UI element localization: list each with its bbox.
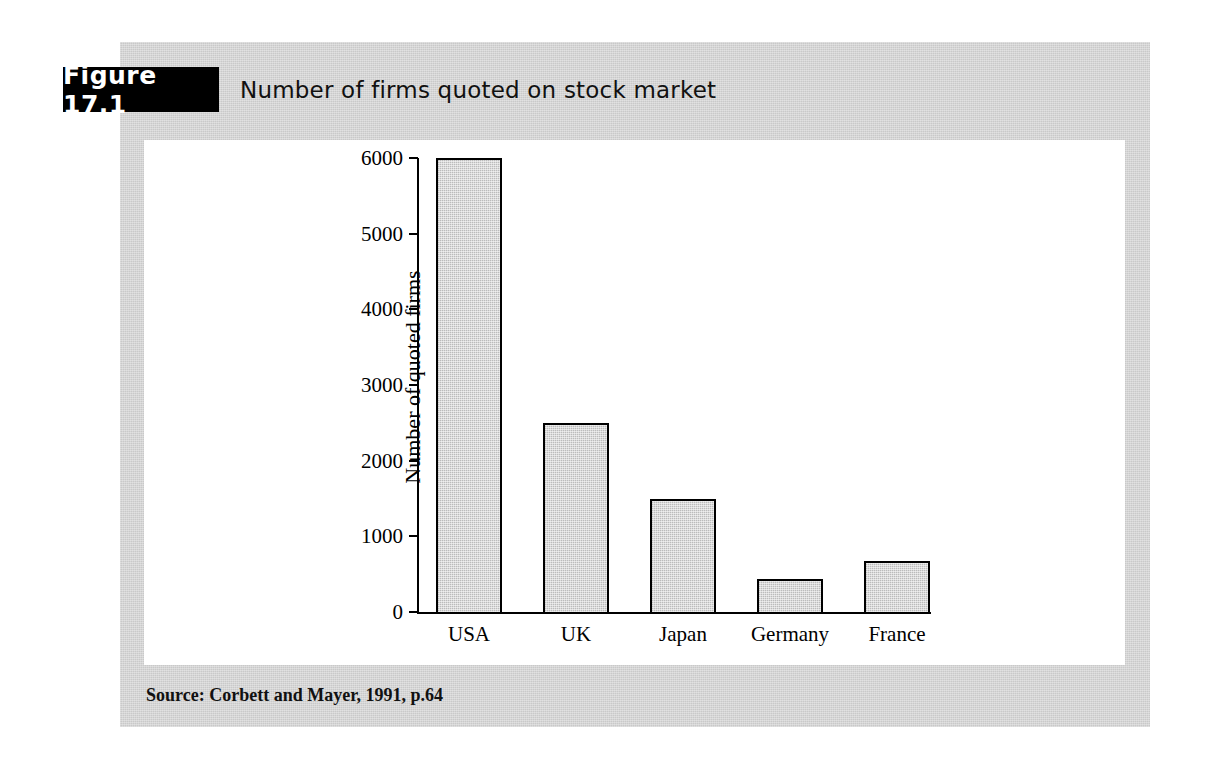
figure-caption: Number of firms quoted on stock market: [240, 70, 716, 110]
y-axis-tick: [409, 308, 418, 310]
bar-japan: [650, 499, 716, 615]
y-axis-tick: [409, 611, 418, 613]
bar-germany: [757, 579, 823, 614]
bar-usa: [436, 158, 502, 614]
bar-france: [864, 561, 930, 614]
y-axis-tick-label: 5000: [343, 223, 403, 244]
y-axis-tick-label: 2000: [343, 450, 403, 471]
source-note: Source: Corbett and Mayer, 1991, p.64: [146, 685, 443, 706]
y-axis-tick: [409, 233, 418, 235]
y-axis-tick-label: 1000: [343, 526, 403, 547]
y-axis-tick: [409, 460, 418, 462]
x-axis-tick-label: UK: [523, 622, 629, 647]
y-axis-title: Number of quoted firms: [400, 212, 426, 542]
x-axis-tick-label: Germany: [737, 622, 843, 647]
figure-number-tag: Figure 17.1: [63, 67, 219, 112]
y-axis-tick-label: 3000: [343, 375, 403, 396]
y-axis-tick: [409, 157, 418, 159]
y-axis-tick-label: 0: [343, 602, 403, 623]
y-axis-tick-labels: 0100020003000400050006000: [331, 140, 403, 665]
y-axis-tick-label: 6000: [343, 148, 403, 169]
x-axis-tick-label: Japan: [630, 622, 736, 647]
x-axis-tick-label: France: [844, 622, 950, 647]
y-axis-tick: [409, 535, 418, 537]
y-axis-tick: [409, 384, 418, 386]
chart-canvas: Number of quoted firms 01000200030004000…: [144, 140, 1125, 665]
y-axis-tick-label: 4000: [343, 299, 403, 320]
figure-panel: Number of quoted firms 01000200030004000…: [120, 42, 1150, 727]
x-axis-tick-label: USA: [416, 622, 522, 647]
bar-uk: [543, 423, 609, 614]
